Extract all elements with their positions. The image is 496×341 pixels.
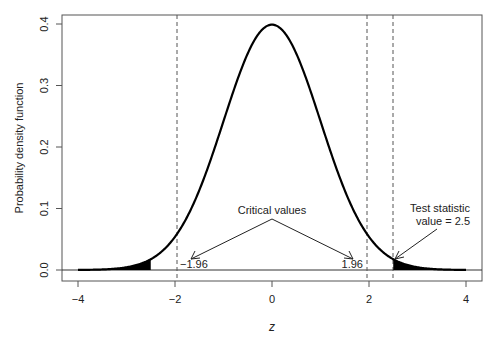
critical-values-arrows <box>191 219 353 259</box>
neg-critical-value-label: −1.96 <box>180 258 208 270</box>
x-axis <box>78 281 466 287</box>
test-statistic-label-line1: Test statistic <box>410 202 470 214</box>
critical-value-lines <box>177 15 393 281</box>
normal-distribution-chart: 0.0 0.1 0.2 0.3 0.4 Probability density … <box>0 0 496 341</box>
y-tick-label: 0.2 <box>38 139 50 154</box>
test-statistic-label-line2: value = 2.5 <box>416 215 470 227</box>
y-axis <box>56 24 62 270</box>
x-tick-label: 2 <box>366 293 372 305</box>
critical-values-label: Critical values <box>238 204 307 216</box>
x-tick-label: −2 <box>169 293 182 305</box>
x-tick-label: 4 <box>463 293 469 305</box>
x-tick-label: −4 <box>72 293 85 305</box>
y-tick-label: 0.3 <box>38 78 50 93</box>
y-tick-label: 0.0 <box>38 262 50 277</box>
pos-critical-value-label: 1.96 <box>342 258 363 270</box>
y-tick-labels: 0.0 0.1 0.2 0.3 0.4 <box>38 16 50 277</box>
test-statistic-arrow <box>395 229 437 259</box>
x-tick-labels: −4 −2 0 2 4 <box>72 293 469 305</box>
y-tick-label: 0.1 <box>38 201 50 216</box>
y-tick-label: 0.4 <box>38 16 50 31</box>
plot-frame <box>62 15 482 281</box>
y-axis-label: Probability density function <box>13 83 25 214</box>
x-tick-label: 0 <box>269 293 275 305</box>
density-curve <box>78 25 466 270</box>
x-axis-label: z <box>268 320 275 334</box>
